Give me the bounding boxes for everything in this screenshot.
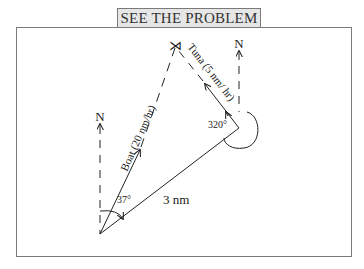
north-label-right: N bbox=[234, 36, 244, 51]
north-reference-right: N bbox=[234, 36, 244, 112]
distance-line bbox=[100, 128, 239, 234]
distance-label: 3 nm bbox=[163, 192, 189, 207]
boat-label: Boat (20 nm/hr) bbox=[118, 103, 159, 173]
boat-angle-arc bbox=[100, 211, 123, 219]
north-label-left: N bbox=[95, 109, 105, 124]
boat-angle-label: 37° bbox=[117, 194, 131, 205]
tuna-label: Tuna (5 nm/ hr) bbox=[185, 41, 238, 104]
vector-diagram: N N 3 nm Boat (20 nm/hr) Tuna (5 nm/ hr)… bbox=[0, 0, 364, 269]
tuna-angle-arc bbox=[224, 112, 258, 148]
intercept-icon: ⋊ bbox=[169, 38, 182, 53]
north-reference-left: N bbox=[95, 109, 105, 234]
tuna-angle-label: 320° bbox=[208, 119, 227, 130]
